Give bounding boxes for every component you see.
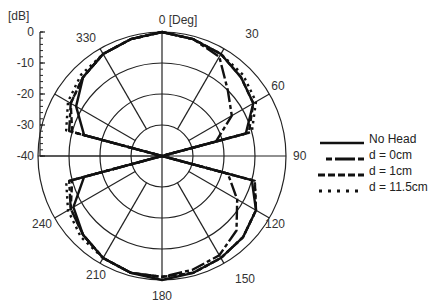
legend: No Head d = 0cm d = 1cm d = 11.5cm (318, 131, 428, 195)
angle-label-60: 60 (271, 79, 285, 93)
angle-label-210: 210 (86, 268, 106, 282)
radial-tick-label: 0 (27, 25, 34, 39)
legend-item-no-head: No Head (318, 131, 428, 147)
grid-spoke (55, 172, 136, 219)
radial-tick-label: -10 (17, 56, 35, 70)
legend-label: d = 1cm (369, 163, 412, 179)
series-line-3 (66, 32, 256, 277)
legend-label: No Head (369, 131, 416, 147)
radial-tick-label: -30 (17, 118, 35, 132)
legend-item-d11-5: d = 11.5cm (318, 179, 428, 195)
angle-label-90: 90 (293, 149, 307, 163)
dashed-line-swatch-icon (318, 167, 364, 175)
grid-spoke (100, 183, 147, 264)
grid-spoke (178, 49, 225, 130)
radial-tick-label: -40 (17, 149, 35, 163)
angle-label-120: 120 (265, 217, 285, 231)
angle-label-180: 180 (152, 289, 172, 303)
dotted-line-swatch-icon (318, 183, 364, 191)
angle-label-330: 330 (76, 31, 96, 45)
solid-line-swatch-icon (318, 135, 364, 143)
legend-label: d = 11.5cm (369, 179, 428, 195)
dash-dot-line-swatch-icon (318, 151, 364, 159)
legend-item-d0: d = 0cm (318, 147, 428, 163)
grid-spoke (100, 49, 147, 130)
angle-label-0: 0 [Deg] (159, 13, 198, 27)
angle-label-240: 240 (32, 217, 52, 231)
legend-item-d1: d = 1cm (318, 163, 428, 179)
radial-tick-label: -20 (17, 87, 35, 101)
legend-label: d = 0cm (369, 147, 412, 163)
radial-unit-label: [dB] (8, 9, 29, 23)
grid-spoke (178, 183, 225, 264)
angle-label-30: 30 (245, 27, 259, 41)
angle-label-150: 150 (235, 272, 255, 286)
